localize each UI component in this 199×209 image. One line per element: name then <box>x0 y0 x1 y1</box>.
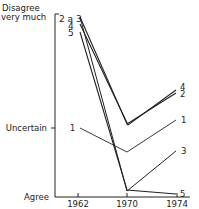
y-label-agree: Agree <box>24 192 49 202</box>
start-label-1: 1 <box>70 124 75 133</box>
start-label-5: 5 <box>68 28 74 38</box>
x-label-1974: 1974 <box>166 199 188 209</box>
y-label-uncertain: Uncertain <box>6 123 47 133</box>
opinion-trend-chart: Disagree very much Uncertain Agree 1962 … <box>0 0 199 209</box>
end-label-3: 3 <box>181 146 186 156</box>
x-label-1962: 1962 <box>67 199 89 209</box>
series-5-line <box>80 32 176 194</box>
end-label-1: 1 <box>181 115 186 125</box>
end-label-5: 5 <box>180 189 185 199</box>
series-3-line <box>80 17 176 191</box>
end-label-2: 2 <box>180 89 185 99</box>
series-4-line <box>80 24 176 125</box>
y-label-very-much: very much <box>1 12 46 22</box>
x-label-1970: 1970 <box>116 199 138 209</box>
